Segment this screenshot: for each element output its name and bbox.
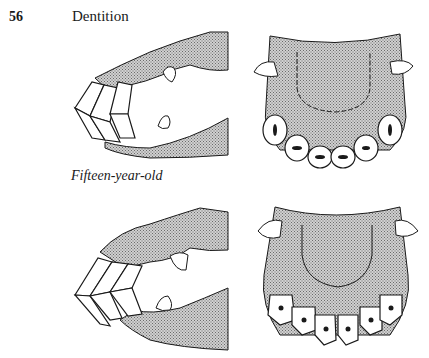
figure-caption-fifteen-year-old: Fifteen-year-old xyxy=(71,168,162,184)
upper-arcade-illustration-fifteen xyxy=(240,195,429,358)
running-head: Dentition xyxy=(72,8,129,25)
figure-side-view-fifteen xyxy=(50,200,230,358)
page-number: 56 xyxy=(9,9,23,25)
jaw-side-illustration-fifteen xyxy=(50,200,230,358)
jaw-side-illustration xyxy=(50,30,230,160)
figure-occlusal-view-fifteen xyxy=(240,195,429,358)
figure-occlusal-view-top xyxy=(240,20,429,170)
figure-side-view-top xyxy=(50,30,230,160)
upper-arcade-illustration xyxy=(240,20,429,170)
